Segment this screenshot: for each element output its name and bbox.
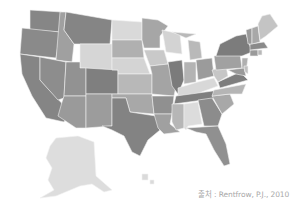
state-ri xyxy=(258,50,262,55)
state-wa xyxy=(30,10,62,32)
state-ar xyxy=(152,96,174,114)
state-hi xyxy=(142,174,154,184)
state-ia xyxy=(144,50,168,66)
state-wy xyxy=(80,44,112,70)
state-ct xyxy=(250,50,258,56)
state-co xyxy=(86,68,118,94)
state-oh xyxy=(196,58,214,80)
state-ny xyxy=(216,34,252,56)
state-ak xyxy=(40,136,112,198)
state-nm xyxy=(86,94,112,128)
state-ks xyxy=(118,74,152,94)
state-or xyxy=(20,28,60,58)
state-az xyxy=(58,96,86,128)
state-nd xyxy=(112,20,142,40)
state-mt xyxy=(64,12,112,44)
state-pa xyxy=(214,54,242,70)
state-ne xyxy=(112,58,150,74)
state-sd xyxy=(112,40,144,58)
state-in xyxy=(184,62,196,84)
state-fl xyxy=(186,126,230,166)
us-choropleth-map xyxy=(0,0,299,204)
state-ms xyxy=(172,104,184,130)
state-me xyxy=(258,14,278,40)
source-caption: 출처 : Rentfrow, P.J., 2010 xyxy=(198,188,289,199)
